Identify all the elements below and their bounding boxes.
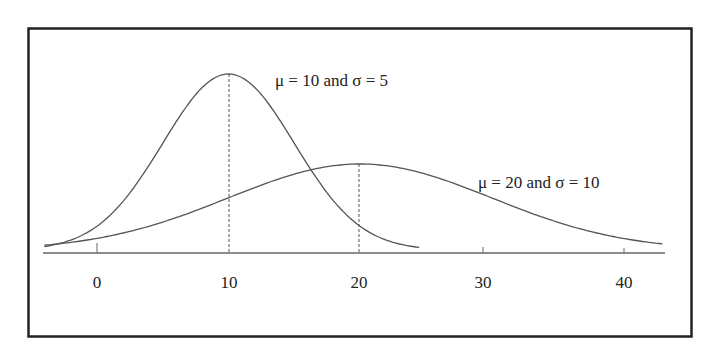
normal-distribution-chart: μ = 10 and σ = 5 μ = 20 and σ = 10 0 10 … [0, 0, 701, 359]
curve1-label: μ = 10 and σ = 5 [275, 71, 388, 90]
curve2-label: μ = 20 and σ = 10 [478, 173, 600, 192]
tick-label-20: 20 [351, 273, 368, 292]
tick-label-0: 0 [93, 273, 102, 292]
tick-label-40: 40 [616, 273, 633, 292]
tick-label-10: 10 [221, 273, 238, 292]
x-axis-ticks [97, 243, 624, 253]
tick-label-30: 30 [475, 273, 492, 292]
curve-mu10-sigma5 [44, 74, 419, 247]
